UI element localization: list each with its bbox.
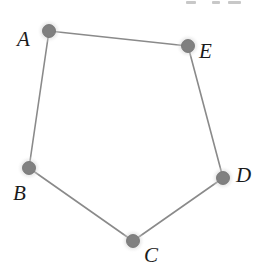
graph-canvas bbox=[0, 0, 269, 279]
graph-edge-a-e bbox=[49, 31, 188, 46]
graph-node-a[interactable] bbox=[37, 19, 61, 43]
node-label-a: A bbox=[17, 29, 30, 50]
node-core-a[interactable] bbox=[43, 25, 56, 38]
node-label-c: C bbox=[144, 245, 158, 266]
graph-edge-e-d bbox=[188, 46, 223, 178]
graph-figure: AEDCB bbox=[0, 0, 269, 279]
graph-edge-d-c bbox=[133, 178, 223, 241]
node-core-b[interactable] bbox=[23, 162, 36, 175]
node-label-b: B bbox=[13, 183, 26, 204]
node-core-d[interactable] bbox=[217, 172, 230, 185]
graph-node-b[interactable] bbox=[17, 156, 41, 180]
graph-node-d[interactable] bbox=[211, 166, 235, 190]
node-core-e[interactable] bbox=[182, 40, 195, 53]
graph-edge-b-a bbox=[29, 31, 49, 168]
graph-node-e[interactable] bbox=[176, 34, 200, 58]
edge-layer bbox=[29, 31, 223, 241]
node-label-d: D bbox=[236, 165, 251, 186]
graph-edge-c-b bbox=[29, 168, 133, 241]
node-core-c[interactable] bbox=[127, 235, 140, 248]
node-label-e: E bbox=[199, 41, 212, 62]
graph-node-c[interactable] bbox=[121, 229, 145, 253]
